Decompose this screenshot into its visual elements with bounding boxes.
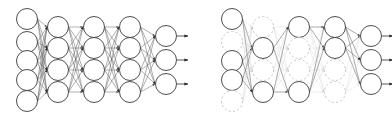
node-hidden-layer-2-h2-4 [84,82,105,103]
node-output-layer-out-1 [156,26,177,47]
node-input-layer-in-5 [17,91,38,112]
node-hidden-layer-3-h3-3 [120,60,141,81]
node-hidden-layer-1-h1-2 [48,38,69,59]
node-hidden-layer-2-h2-4 [289,82,310,103]
node-output-layer-out-2 [361,50,382,71]
node-input-layer-in-2-dropped [222,32,243,53]
node-input-layer-in-1 [17,9,38,30]
node-hidden-layer-3-h3-1 [120,17,141,38]
edge-h3-4-to-out-3 [346,84,361,92]
node-hidden-layer-1-h1-4 [253,82,274,103]
panel-standard-network [17,9,189,112]
node-output-layer-out-3 [156,74,177,95]
node-output-layer-out-2 [156,50,177,71]
node-input-layer-in-4 [17,70,38,91]
panel-dropout-network [222,9,392,112]
node-hidden-layer-3-h3-3-dropped [325,60,346,81]
edge-h3-2-to-out-1 [141,36,156,48]
node-hidden-layer-3-h3-1 [325,17,346,38]
edge-h3-2-to-out-1 [346,36,361,48]
output-arrows-standard-network [177,36,188,84]
node-hidden-layer-2-h2-3 [84,60,105,81]
node-hidden-layer-2-h2-3-dropped [289,60,310,81]
edge-h3-3-to-out-3 [346,70,361,84]
node-hidden-layer-2-h2-2 [84,38,105,59]
node-input-layer-in-5-dropped [222,91,243,112]
edge-h3-4-to-out-3 [141,84,156,92]
node-input-layer-in-4 [222,70,243,91]
node-hidden-layer-1-h1-1 [48,17,69,38]
node-hidden-layer-1-h1-4 [48,82,69,103]
node-input-layer-in-2 [17,32,38,53]
dropout-figure [0,0,392,121]
nodes-standard-network [17,9,177,112]
node-hidden-layer-1-h1-1-dropped [253,17,274,38]
node-input-layer-in-3 [222,51,243,72]
edge-h3-4-to-out-1 [346,36,361,92]
node-output-layer-out-3 [361,74,382,95]
node-hidden-layer-2-h2-1 [84,17,105,38]
output-arrows-dropout-network [382,36,392,84]
node-input-layer-in-1 [222,9,243,30]
node-hidden-layer-2-h2-1 [289,17,310,38]
node-hidden-layer-3-h3-4-dropped [325,82,346,103]
node-hidden-layer-3-h3-4 [120,82,141,103]
nodes-dropout-network [222,9,382,112]
node-hidden-layer-3-h3-2 [120,38,141,59]
node-output-layer-out-1 [361,26,382,47]
edge-h3-3-to-out-3 [141,70,156,84]
node-hidden-layer-1-h1-3 [48,60,69,81]
node-hidden-layer-3-h3-2 [325,38,346,59]
node-hidden-layer-1-h1-2 [253,38,274,59]
network-diagram-canvas [0,0,392,121]
node-hidden-layer-1-h1-3-dropped [253,60,274,81]
node-input-layer-in-3 [17,51,38,72]
edge-h3-4-to-out-1 [141,36,156,92]
node-hidden-layer-2-h2-2-dropped [289,38,310,59]
